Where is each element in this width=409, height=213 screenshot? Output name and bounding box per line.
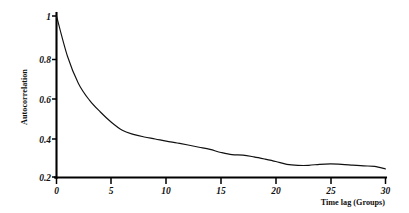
- figure-canvas: Autocorrelation 1 0.8 0.6 0.4 0.2: [0, 0, 409, 213]
- y-tick-labels: 1 0.8 0.6 0.4 0.2: [39, 12, 51, 183]
- autocorrelation-line: [57, 16, 386, 169]
- y-tick-label: 1: [46, 12, 51, 22]
- x-tick-label: 15: [216, 186, 226, 196]
- y-tick-label: 0.2: [39, 173, 51, 183]
- x-tick-label: 0: [54, 186, 59, 196]
- y-axis-title-text: Autocorrelation: [20, 69, 29, 125]
- x-axis-title-text: Time lag (Groups): [321, 198, 386, 207]
- x-tick-label: 5: [109, 186, 114, 196]
- x-tick-labels: 0 5 10 15 20 25 30: [54, 186, 390, 196]
- x-tick-label: 20: [270, 186, 281, 196]
- y-tick-label: 0.4: [39, 135, 51, 145]
- autocorrelation-chart: Autocorrelation 1 0.8 0.6 0.4 0.2: [0, 0, 409, 213]
- x-tick-label: 10: [161, 186, 171, 196]
- x-tick-marks: [57, 178, 386, 184]
- y-axis-title: Autocorrelation: [20, 69, 29, 125]
- x-tick-label: 30: [380, 186, 391, 196]
- y-tick-label: 0.8: [39, 55, 51, 65]
- y-tick-label: 0.6: [39, 95, 51, 105]
- x-tick-label: 25: [325, 186, 336, 196]
